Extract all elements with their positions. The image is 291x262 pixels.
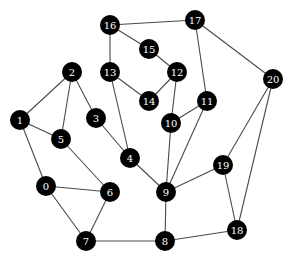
node-20: 20 — [263, 69, 283, 89]
node-7: 7 — [76, 231, 96, 251]
node-label: 9 — [163, 187, 169, 198]
node-6: 6 — [100, 182, 120, 202]
node-label: 6 — [107, 187, 113, 198]
node-18: 18 — [227, 220, 247, 240]
node-label: 7 — [83, 236, 89, 247]
node-label: 13 — [104, 67, 117, 78]
node-label: 18 — [231, 225, 244, 236]
nodes-layer: 01234567891011121314151617181920 — [10, 10, 283, 251]
edge-2-5 — [61, 72, 72, 139]
node-16: 16 — [100, 15, 120, 35]
edge-0-7 — [46, 186, 86, 241]
node-10: 10 — [161, 113, 181, 133]
node-label: 2 — [69, 67, 75, 78]
edge-19-20 — [223, 79, 273, 165]
edge-16-17 — [110, 20, 195, 25]
node-15: 15 — [139, 39, 159, 59]
node-label: 5 — [58, 134, 64, 145]
node-11: 11 — [197, 91, 217, 111]
graph-svg: 01234567891011121314151617181920 — [0, 0, 291, 262]
node-label: 20 — [267, 74, 280, 85]
edge-20-18 — [237, 79, 273, 230]
node-label: 16 — [104, 20, 117, 31]
edge-17-20 — [195, 20, 273, 79]
node-14: 14 — [139, 91, 159, 111]
node-13: 13 — [100, 62, 120, 82]
node-5: 5 — [51, 129, 71, 149]
node-label: 4 — [127, 153, 133, 164]
node-label: 12 — [171, 67, 184, 78]
graph-diagram: 01234567891011121314151617181920 — [0, 0, 291, 262]
node-4: 4 — [120, 148, 140, 168]
edge-17-11 — [195, 20, 207, 101]
node-label: 14 — [143, 96, 156, 107]
edge-8-18 — [165, 230, 237, 241]
node-label: 11 — [201, 96, 214, 107]
node-label: 10 — [165, 118, 178, 129]
node-label: 0 — [43, 181, 49, 192]
node-8: 8 — [155, 231, 175, 251]
node-label: 19 — [217, 160, 230, 171]
node-label: 8 — [162, 236, 168, 247]
node-12: 12 — [167, 62, 187, 82]
node-9: 9 — [156, 182, 176, 202]
node-0: 0 — [36, 176, 56, 196]
node-label: 15 — [143, 44, 156, 55]
node-label: 1 — [17, 115, 23, 126]
edge-5-6 — [61, 139, 110, 192]
node-2: 2 — [62, 62, 82, 82]
node-label: 17 — [189, 15, 202, 26]
edge-2-1 — [20, 72, 72, 120]
node-1: 1 — [10, 110, 30, 130]
node-17: 17 — [185, 10, 205, 30]
node-3: 3 — [86, 108, 106, 128]
node-19: 19 — [213, 155, 233, 175]
node-label: 3 — [93, 113, 99, 124]
